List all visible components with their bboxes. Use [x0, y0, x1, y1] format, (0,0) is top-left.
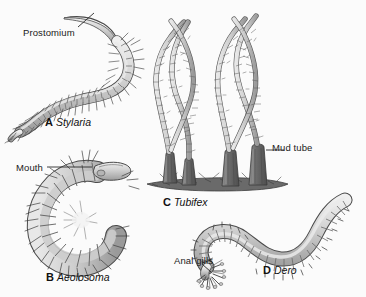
panel-b-species: Aeolosoma [54, 271, 110, 283]
label-anal-gills: Anal gills [174, 256, 213, 266]
mud-tube [249, 144, 267, 185]
caption-panel-d: DDero [263, 261, 297, 277]
panel-c-species: Tubifex [171, 196, 208, 208]
panel-c-letter: C [163, 196, 171, 208]
mud-tube [222, 149, 239, 186]
panel-c-tubifex-drawing [147, 16, 288, 191]
panel-d-species: Dero [271, 264, 297, 276]
panel-a-species: Stylaria [53, 116, 91, 128]
panel-d-letter: D [263, 264, 271, 276]
caption-panel-a: AStylaria [45, 113, 91, 129]
mud-tube [163, 152, 177, 183]
caption-panel-b: BAeolosoma [46, 268, 109, 284]
panel-b-letter: B [46, 271, 54, 283]
label-mud-tube: Mud tube [272, 143, 312, 153]
label-mouth: Mouth [16, 163, 43, 173]
label-prostomium: Prostomium [23, 28, 75, 38]
panel-a-letter: A [45, 116, 53, 128]
caption-panel-c: CTubifex [163, 193, 208, 209]
mud-tube [182, 158, 196, 185]
